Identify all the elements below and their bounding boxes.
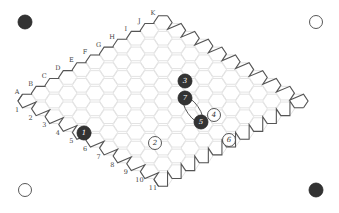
column-label: D: [55, 64, 60, 72]
row-label: 4: [56, 129, 60, 137]
stone-move-4[interactable]: 4: [208, 109, 221, 122]
move-number: 1: [82, 129, 86, 137]
row-label: 5: [69, 137, 73, 145]
corner-marker-top-left-black: [18, 15, 32, 29]
column-label: B: [28, 80, 33, 88]
column-label: J: [137, 17, 141, 25]
stone-move-5[interactable]: 5: [194, 115, 208, 129]
corner-marker-bottom-left-white: [19, 184, 32, 197]
row-label: 10: [135, 176, 143, 184]
corner-marker-bottom-right-black: [309, 183, 323, 197]
stone-move-3[interactable]: 3: [178, 74, 192, 88]
row-label: 1: [15, 106, 19, 114]
stone-move-7[interactable]: 7: [178, 91, 192, 105]
move-number: 6: [227, 136, 232, 144]
row-label: 7: [97, 153, 101, 161]
move-number: 3: [183, 77, 188, 85]
stone-move-2[interactable]: 2: [149, 137, 162, 150]
corner-marker-top-right-white: [310, 16, 323, 29]
row-label: 6: [83, 145, 87, 153]
column-label: F: [83, 48, 88, 56]
hex-board: ABCDEFGHIJK1234567891011 1 2 3 4 5: [0, 0, 339, 213]
column-label: E: [69, 56, 74, 64]
column-label: G: [96, 41, 101, 49]
row-label: 2: [29, 114, 33, 122]
row-label: 11: [149, 184, 157, 192]
row-label: 8: [110, 161, 114, 169]
row-label: 9: [124, 168, 128, 176]
row-label: 3: [42, 121, 46, 129]
column-label: C: [42, 72, 47, 80]
move-number: 4: [211, 111, 216, 119]
column-label: A: [14, 88, 20, 96]
move-number: 2: [152, 139, 158, 147]
board-cells: [18, 16, 308, 187]
move-number: 7: [183, 94, 188, 102]
column-label: I: [125, 25, 128, 33]
stone-move-6[interactable]: 6: [223, 134, 236, 147]
column-label: H: [109, 33, 115, 41]
move-number: 5: [199, 118, 204, 126]
stone-move-1[interactable]: 1: [77, 126, 91, 140]
column-label: K: [151, 9, 156, 17]
